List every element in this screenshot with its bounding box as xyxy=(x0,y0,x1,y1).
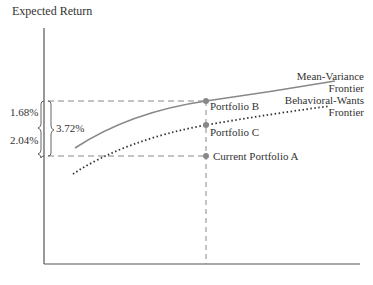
portfolio-b-label: Portfolio B xyxy=(210,100,259,112)
gap-ca-label: 2.04% xyxy=(10,134,38,146)
brace-left-upper xyxy=(38,101,44,132)
brace-left-lower xyxy=(38,132,44,158)
mean-variance-frontier xyxy=(75,81,335,148)
portfolio-b-point xyxy=(203,98,209,104)
behavioral-wants-frontier xyxy=(73,106,330,174)
gap-bc-label: 1.68% xyxy=(10,106,38,118)
portfolio-c-point xyxy=(203,122,209,128)
behavioral-wants-label-2: Frontier xyxy=(329,106,365,118)
portfolio-a-label: Current Portfolio A xyxy=(213,150,299,162)
gap-ba-label: 3.72% xyxy=(56,122,84,134)
brace-right xyxy=(48,101,54,156)
behavioral-wants-label-1: Behavioral-Wants xyxy=(285,94,364,106)
portfolio-c-label: Portfolio C xyxy=(210,126,259,138)
mean-variance-label-1: Mean-Variance xyxy=(297,70,364,82)
portfolio-a-point xyxy=(203,153,209,159)
mean-variance-label-2: Frontier xyxy=(329,82,365,94)
chart-canvas: Portfolio B Portfolio C Current Portfoli… xyxy=(0,0,373,285)
